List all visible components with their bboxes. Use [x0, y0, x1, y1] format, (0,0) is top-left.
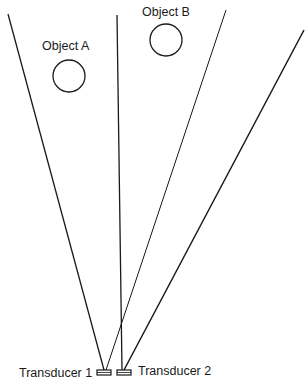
object-a-circle: [53, 60, 85, 92]
transducer-2-label: Transducer 2: [138, 365, 211, 378]
object-b-circle: [150, 24, 182, 56]
transducer-beam-diagram: [0, 0, 306, 388]
transducer-2-beam-left-edge: [117, 15, 122, 370]
object-a-label: Object A: [42, 40, 89, 53]
transducer-2-beam-right-edge: [124, 30, 304, 370]
transducer-2-icon: [117, 370, 131, 375]
transducer-1-beam-right-edge: [106, 10, 226, 370]
object-b-label: Object B: [142, 6, 190, 19]
transducer-1-label: Transducer 1: [19, 367, 92, 380]
transducer-1-icon: [97, 370, 111, 375]
